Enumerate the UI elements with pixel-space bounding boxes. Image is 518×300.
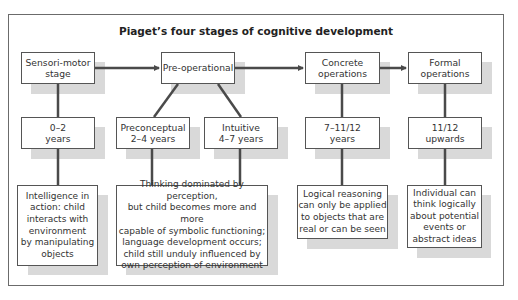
description-sensorimotor: Intelligence in action: child interacts …: [17, 185, 98, 266]
stage-formal-operations: Formal operations: [408, 52, 482, 84]
description-concrete: Logical reasoning can only be applied to…: [297, 185, 388, 239]
stage-preoperational: Pre-operational: [161, 52, 235, 84]
age-concrete: 7–11/12 years: [305, 117, 380, 149]
age-preconceptual: Preconceptual 2–4 years: [116, 117, 190, 149]
age-formal: 11/12 upwards: [408, 117, 482, 149]
description-preoperational: Thinking dominated by perception, but ch…: [116, 185, 268, 266]
age-intuitive: Intuitive 4–7 years: [204, 117, 278, 149]
stage-concrete-operations: Concrete operations: [305, 52, 380, 84]
description-formal: Individual can think logically about pot…: [407, 185, 482, 248]
stage-sensorimotor: Sensori-motor stage: [21, 52, 95, 84]
age-sensorimotor: 0–2 years: [21, 117, 95, 149]
